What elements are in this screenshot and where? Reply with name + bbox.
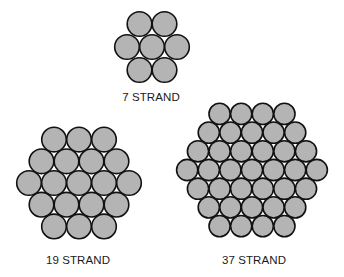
strand-circle (79, 149, 104, 174)
strand-circle (42, 127, 67, 152)
label-7-strand: 7 STRAND (122, 91, 180, 103)
strand-circle (79, 192, 104, 217)
strand-circle (252, 178, 273, 199)
bundle-37-strand (177, 103, 328, 236)
strand-circle (29, 192, 54, 217)
strand-circle (54, 192, 79, 217)
strand-circle (115, 35, 140, 60)
strand-circle (165, 35, 190, 60)
strand-circle (241, 197, 262, 218)
strand-circle (241, 159, 262, 180)
strand-circle (241, 122, 262, 143)
strand-circle (92, 214, 117, 239)
strand-circle (104, 149, 129, 174)
strand-circle (187, 141, 208, 162)
label-37-strand: 37 STRAND (222, 254, 286, 266)
strand-circle (54, 149, 79, 174)
strand-circle (263, 122, 284, 143)
strand-circle (67, 127, 92, 152)
strand-circle (177, 159, 198, 180)
strand-circle (92, 127, 117, 152)
strand-circle (285, 159, 306, 180)
strand-circle (263, 159, 284, 180)
strand-circle (198, 122, 219, 143)
strand-circle (231, 141, 252, 162)
strand-circle (209, 178, 230, 199)
strand-circle (274, 141, 295, 162)
strand-circle (152, 58, 177, 83)
stranding-diagram: 7 STRAND 19 STRAND 37 STRAND (0, 0, 344, 277)
strand-circle (295, 141, 316, 162)
strand-circle (198, 159, 219, 180)
strand-circle (104, 192, 129, 217)
strand-circle (252, 141, 273, 162)
strand-circle (198, 197, 219, 218)
strand-circle (274, 178, 295, 199)
strand-circle (285, 122, 306, 143)
strand-circle (252, 216, 273, 237)
strand-circle (306, 159, 327, 180)
strand-circle (263, 197, 284, 218)
strand-bundles-graphic (0, 0, 344, 277)
strand-circle (140, 35, 165, 60)
strand-circle (295, 178, 316, 199)
strand-circle (274, 216, 295, 237)
strand-circle (220, 122, 241, 143)
strand-circle (209, 141, 230, 162)
strand-circle (209, 216, 230, 237)
strand-circle (274, 103, 295, 124)
strand-circle (42, 214, 67, 239)
strand-circle (67, 214, 92, 239)
label-19-strand: 19 STRAND (46, 254, 110, 266)
bundle-19-strand (17, 127, 142, 238)
strand-circle (17, 171, 42, 196)
strand-circle (231, 216, 252, 237)
strand-circle (42, 171, 67, 196)
bundle-7-strand (115, 12, 190, 83)
strand-circle (252, 103, 273, 124)
strand-circle (117, 171, 142, 196)
strand-circle (92, 171, 117, 196)
strand-circle (187, 178, 208, 199)
strand-circle (220, 159, 241, 180)
strand-circle (152, 12, 177, 37)
strand-circle (29, 149, 54, 174)
strand-circle (231, 178, 252, 199)
strand-circle (127, 58, 152, 83)
strand-circle (285, 197, 306, 218)
strand-circle (127, 12, 152, 37)
strand-circle (67, 171, 92, 196)
strand-circle (231, 103, 252, 124)
strand-circle (220, 197, 241, 218)
strand-circle (209, 103, 230, 124)
